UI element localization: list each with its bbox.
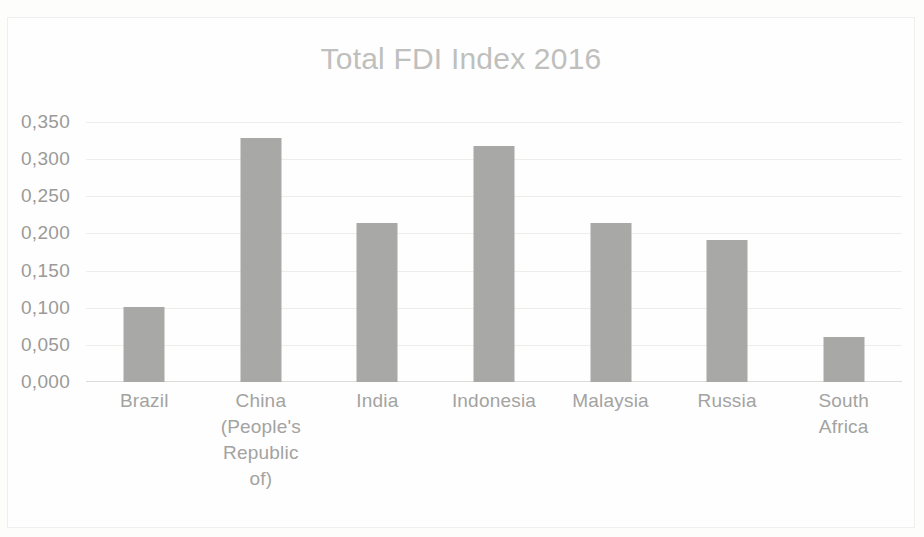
bar-slot bbox=[785, 122, 902, 382]
bar-slot bbox=[319, 122, 436, 382]
chart-title: Total FDI Index 2016 bbox=[8, 42, 914, 76]
bar[interactable] bbox=[357, 223, 398, 382]
y-axis-tick-label: 0,050 bbox=[21, 334, 70, 356]
y-axis-tick-label: 0,000 bbox=[21, 371, 70, 393]
x-axis-category-label: China(People'sRepublicof) bbox=[203, 388, 320, 492]
x-axis: BrazilChina(People'sRepublicof)IndiaIndo… bbox=[86, 388, 902, 518]
bar-slot bbox=[669, 122, 786, 382]
y-axis-tick-label: 0,250 bbox=[21, 185, 70, 207]
bar[interactable] bbox=[124, 307, 165, 382]
x-axis-category-label: Brazil bbox=[86, 388, 203, 414]
bar-slot bbox=[203, 122, 320, 382]
bar-slot bbox=[86, 122, 203, 382]
bar[interactable] bbox=[707, 240, 748, 382]
y-axis: 0,3500,3000,2500,2000,1500,1000,0500,000 bbox=[8, 122, 78, 382]
chart-container: Total FDI Index 2016 0,3500,3000,2500,20… bbox=[7, 17, 915, 528]
x-axis-category-label: India bbox=[319, 388, 436, 414]
bar[interactable] bbox=[590, 223, 631, 382]
y-axis-tick-label: 0,150 bbox=[21, 260, 70, 282]
x-axis-category-label: Indonesia bbox=[436, 388, 553, 414]
x-axis-category-label: Russia bbox=[669, 388, 786, 414]
y-axis-tick-label: 0,350 bbox=[21, 111, 70, 133]
bar-slot bbox=[552, 122, 669, 382]
x-axis-category-label: Malaysia bbox=[552, 388, 669, 414]
y-axis-tick-label: 0,100 bbox=[21, 297, 70, 319]
plot-area bbox=[86, 122, 902, 382]
bar[interactable] bbox=[473, 146, 514, 382]
bar-slot bbox=[436, 122, 553, 382]
y-axis-tick-label: 0,300 bbox=[21, 148, 70, 170]
y-axis-tick-label: 0,200 bbox=[21, 222, 70, 244]
bar[interactable] bbox=[240, 138, 281, 382]
x-axis-category-label: SouthAfrica bbox=[785, 388, 902, 440]
bar[interactable] bbox=[823, 337, 864, 382]
